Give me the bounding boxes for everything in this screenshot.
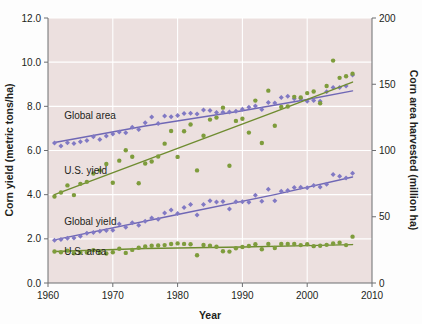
data-point (214, 244, 218, 248)
data-point (188, 242, 192, 246)
data-point (260, 141, 264, 145)
data-point (143, 161, 147, 165)
data-point (156, 154, 160, 158)
y-right-tick-label: 150 (379, 79, 396, 90)
y-left-tick-label: 8.0 (27, 101, 41, 112)
right-axis (372, 18, 376, 283)
data-point (311, 244, 315, 248)
data-point (175, 241, 179, 245)
y-right-axis-title: Corn area harvested (million ha) (408, 70, 420, 230)
y-right-tick-label: 0 (379, 278, 385, 289)
data-point (111, 181, 115, 185)
y-left-axis-title: Corn yield (metric tons/ha) (3, 83, 15, 216)
data-point (305, 242, 309, 246)
data-point (85, 180, 89, 184)
y-right-tick-label: 50 (379, 211, 391, 222)
data-point (331, 58, 335, 62)
data-point (247, 244, 251, 248)
data-point (65, 183, 69, 187)
y-left-tick-label: 0.0 (27, 278, 41, 289)
data-point (324, 243, 328, 247)
data-point (311, 89, 315, 93)
data-point (344, 74, 348, 78)
data-point (117, 158, 121, 162)
data-point (137, 181, 141, 185)
data-point (52, 249, 56, 253)
data-point (337, 241, 341, 245)
data-point (156, 243, 160, 247)
data-point (331, 241, 335, 245)
data-point (78, 182, 82, 186)
data-point (169, 242, 173, 246)
data-point (124, 251, 128, 255)
series-label-global-area: Global area (64, 110, 116, 121)
y-right-tick-labels: 050100150200 (379, 13, 396, 289)
data-point (169, 129, 173, 133)
data-point (201, 243, 205, 247)
x-tick-label: 1960 (37, 290, 60, 301)
data-point (260, 247, 264, 251)
data-point (149, 159, 153, 163)
data-point (279, 105, 283, 109)
x-tick-label: 1990 (231, 290, 254, 301)
x-tick-label: 1980 (166, 290, 189, 301)
chart-figure: Global areaU.S. yieldGlobal yieldU.S. ar… (0, 0, 422, 324)
data-point (286, 242, 290, 246)
data-point (195, 253, 199, 257)
y-right-tick-label: 200 (379, 13, 396, 24)
data-point (188, 122, 192, 126)
y-left-tick-label: 2.0 (27, 233, 41, 244)
data-point (149, 244, 153, 248)
data-point (221, 105, 225, 109)
x-axis-title: Year (199, 309, 221, 321)
data-point (214, 115, 218, 119)
data-point (201, 134, 205, 138)
data-point (182, 129, 186, 133)
series-label-u-s-area: U.S. area (64, 246, 107, 257)
data-point (318, 244, 322, 248)
data-point (59, 190, 63, 194)
data-point (59, 250, 63, 254)
data-point (318, 101, 322, 105)
data-point (273, 246, 277, 250)
data-point (208, 117, 212, 121)
x-tick-label: 2000 (296, 290, 319, 301)
data-point (266, 88, 270, 92)
data-point (286, 104, 290, 108)
data-point (299, 95, 303, 99)
x-tick-label: 1970 (102, 290, 125, 301)
data-point (344, 243, 348, 247)
data-point (240, 245, 244, 249)
y-left-tick-label: 4.0 (27, 189, 41, 200)
data-point (234, 119, 238, 123)
corn-yield-area-chart: Global areaU.S. yieldGlobal yieldU.S. ar… (0, 0, 422, 324)
y-left-tick-label: 10.0 (22, 57, 42, 68)
data-point (195, 168, 199, 172)
data-point (266, 242, 270, 246)
data-point (208, 243, 212, 247)
data-point (279, 242, 283, 246)
x-tick-labels: 196019701980199020002010 (37, 290, 384, 301)
data-point (221, 249, 225, 253)
data-point (350, 234, 354, 238)
data-point (292, 242, 296, 246)
data-point (111, 250, 115, 254)
data-point (350, 71, 354, 75)
y-right-tick-label: 100 (379, 145, 396, 156)
series-label-global-yield: Global yield (64, 216, 116, 227)
data-point (162, 243, 166, 247)
data-point (227, 249, 231, 253)
data-point (253, 242, 257, 246)
x-tick-label: 2010 (361, 290, 384, 301)
data-point (299, 243, 303, 247)
y-left-tick-label: 12.0 (22, 13, 42, 24)
data-point (72, 193, 76, 197)
data-point (247, 130, 251, 134)
data-point (305, 91, 309, 95)
data-point (292, 95, 296, 99)
data-point (130, 248, 134, 252)
data-point (234, 246, 238, 250)
data-point (124, 148, 128, 152)
data-point (162, 141, 166, 145)
data-point (52, 194, 56, 198)
